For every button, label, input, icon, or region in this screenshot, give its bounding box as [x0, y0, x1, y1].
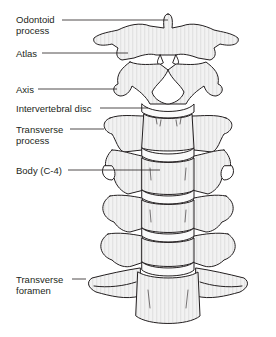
label-transverse-foramen: Transverse foramen	[16, 274, 63, 296]
label-axis: Axis	[16, 84, 34, 95]
c3-vertebra	[104, 114, 232, 152]
intervertebral-disc-c2-c3	[142, 104, 194, 118]
label-intervertebral-disc: Intervertebral disc	[16, 103, 92, 114]
axis-vertebra	[114, 62, 223, 104]
cervical-spine-diagram: Odontoid process Atlas Axis Intervertebr…	[0, 0, 276, 337]
label-odontoid-process: Odontoid process	[16, 14, 55, 36]
label-transverse-process: Transverse process	[16, 124, 63, 146]
atlas-vertebra	[94, 14, 239, 65]
label-body-c4: Body (C-4)	[16, 165, 62, 176]
label-atlas: Atlas	[16, 48, 37, 59]
